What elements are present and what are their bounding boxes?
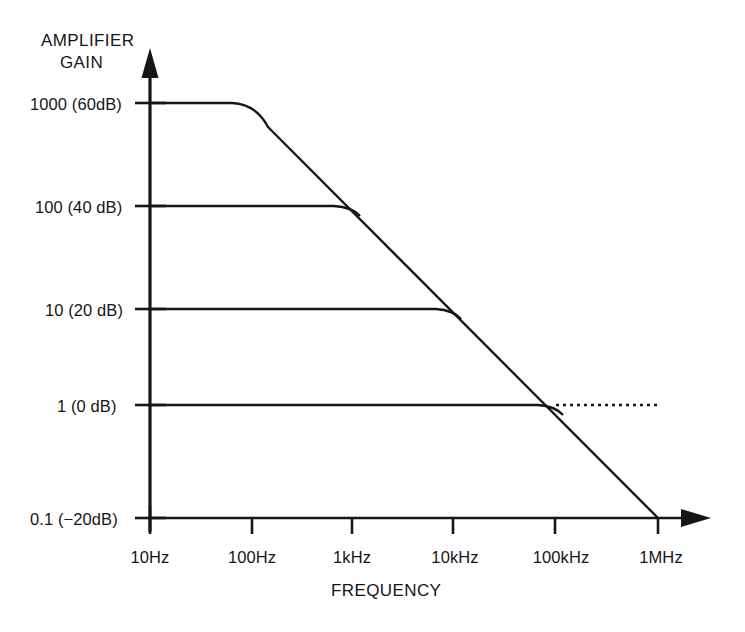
x-tick-label-100khz: 100kHz <box>533 548 590 566</box>
amplifier-gain-bode-plot: AMPLIFIER GAIN FREQUENCY 1000 (60dB) 100… <box>0 0 745 632</box>
x-tick-label-10khz: 10kHz <box>431 548 478 566</box>
y-tick-label-0.1: 0.1 (−20dB) <box>30 510 118 528</box>
x-tick-label-100hz: 100Hz <box>228 548 276 566</box>
x-tick-label-1mhz: 1MHz <box>639 548 683 566</box>
y-tick-label-10: 10 (20 dB) <box>45 301 123 319</box>
y-tick-label-1000: 1000 (60dB) <box>30 95 122 113</box>
y-tick-label-1: 1 (0 dB) <box>57 397 117 415</box>
figure-root: AMPLIFIER GAIN FREQUENCY 1000 (60dB) 100… <box>0 0 745 632</box>
y-axis-title-line2: GAIN <box>60 53 103 72</box>
y-axis-title-line1: AMPLIFIER <box>41 31 134 50</box>
y-tick-label-100: 100 (40 dB) <box>35 198 122 216</box>
x-tick-label-10hz: 10Hz <box>131 548 170 566</box>
x-axis-title: FREQUENCY <box>331 581 441 600</box>
x-tick-label-1khz: 1kHz <box>333 548 371 566</box>
